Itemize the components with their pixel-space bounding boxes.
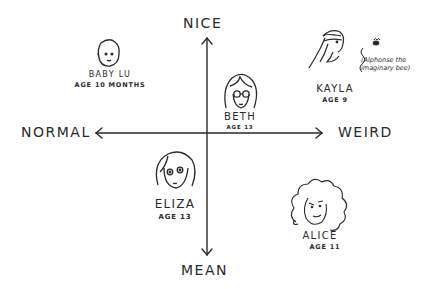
bee-icon <box>373 39 380 46</box>
axis-label-mean: MEAN <box>181 262 228 278</box>
alice-face-icon <box>291 179 346 230</box>
kayla-face-icon <box>309 31 344 68</box>
quadrant-axes <box>0 0 436 289</box>
character-name-alice: ALICE <box>295 230 345 241</box>
character-note-kayla: (Alphonse the imaginary bee) <box>361 56 423 72</box>
character-age-eliza: AGE 13 <box>145 213 205 221</box>
character-age-beth: AGE 13 <box>220 124 260 130</box>
axis-label-nice: NICE <box>183 15 222 31</box>
character-age-alice: AGE 11 <box>300 243 350 251</box>
beth-face-icon <box>225 74 257 108</box>
character-name-beth: BETH <box>220 111 260 122</box>
character-name-kayla: KAYLA <box>310 83 360 94</box>
axis-label-weird: WEIRD <box>338 124 393 140</box>
character-age-baby-lu: AGE 10 MONTHS <box>70 81 150 89</box>
character-age-kayla: AGE 9 <box>310 96 360 104</box>
baby-lu-face-icon <box>98 40 119 66</box>
character-name-baby-lu: BABY LU <box>80 70 140 79</box>
axis-label-normal: NORMAL <box>21 124 91 140</box>
eliza-face-icon <box>156 152 195 188</box>
character-name-eliza: ELIZA <box>145 197 205 211</box>
